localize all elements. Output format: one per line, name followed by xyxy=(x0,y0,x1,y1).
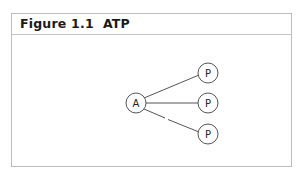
edge-a-p3 xyxy=(144,109,165,118)
node-a: A xyxy=(126,93,146,113)
node-p2: P xyxy=(198,93,218,113)
node-p2-label: P xyxy=(205,98,211,109)
node-a-label: A xyxy=(133,98,140,109)
node-p1: P xyxy=(198,63,218,83)
edge-a-p3-segment xyxy=(168,120,199,133)
atp-diagram: A P P P xyxy=(0,0,304,178)
edge-a-p1 xyxy=(144,75,199,98)
node-p3: P xyxy=(198,124,218,144)
node-p3-label: P xyxy=(205,129,211,140)
node-p1-label: P xyxy=(205,68,211,79)
